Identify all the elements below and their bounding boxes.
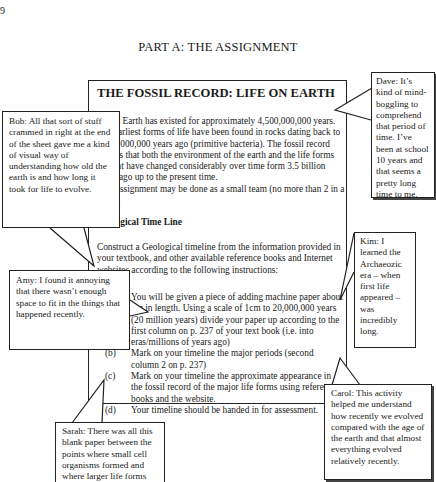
- callout-sarah: Sarah: There was all this blank paper be…: [55, 422, 165, 482]
- section-intro: Construct a Geological timeline from the…: [97, 242, 347, 276]
- instruction-label: (c): [105, 371, 115, 382]
- intro-text: Planet Earth has existed for approximate…: [97, 116, 340, 182]
- callout-bob: Bob: All that sort of stuff crammed in r…: [2, 111, 120, 228]
- assignment-sheet: THE FOSSIL RECORD: LIFE ON EARTH Planet …: [88, 80, 347, 404]
- instruction-text: Mark on your timeline the major periods …: [131, 348, 314, 369]
- callout-dave: Dave: It’s kind of mind-boggling to comp…: [371, 72, 435, 198]
- part-heading: PART A: THE ASSIGNMENT: [0, 40, 436, 55]
- callout-dave-text: Dave: It’s kind of mind-boggling to comp…: [376, 76, 429, 199]
- callout-carol: Carol: This activity helped me understan…: [324, 384, 432, 480]
- page-number: 9: [0, 5, 5, 16]
- callout-carol-text: Carol: This activity helped me understan…: [331, 388, 424, 466]
- callout-kim: Kim: I learned the Archaeozic era – when…: [354, 232, 416, 348]
- callout-sarah-text: Sarah: There was all this blank paper be…: [62, 426, 153, 481]
- instruction-text: Your timeline should be handed in for as…: [131, 405, 318, 415]
- instruction-item: (c)Mark on your timeline the approximate…: [105, 371, 343, 405]
- instruction-label: (b): [105, 348, 116, 359]
- callout-kim-text: Kim: I learned the Archaeozic era – when…: [360, 236, 402, 336]
- team-note: This assignment may be done as a small t…: [97, 184, 344, 205]
- instruction-list: (a)You will be given a piece of adding m…: [105, 292, 343, 416]
- instruction-label: (d): [105, 405, 116, 416]
- instruction-text: Mark on your timeline the approximate ap…: [131, 371, 337, 404]
- callout-amy-text: Amy: I found it annoying that there wasn…: [16, 275, 120, 319]
- callout-bob-text: Bob: All that sort of stuff crammed in r…: [9, 116, 110, 194]
- intro-paragraph: Planet Earth has existed for approximate…: [97, 116, 347, 206]
- instruction-item: (d)Your timeline should be handed in for…: [105, 405, 343, 416]
- callout-amy: Amy: I found it annoying that there wasn…: [9, 270, 130, 350]
- instruction-item: (b)Mark on your timeline the major perio…: [105, 348, 343, 371]
- instruction-text: You will be given a piece of adding mach…: [131, 292, 343, 347]
- instruction-item: (a)You will be given a piece of adding m…: [105, 292, 343, 348]
- assignment-title: THE FOSSIL RECORD: LIFE ON EARTH: [97, 86, 335, 101]
